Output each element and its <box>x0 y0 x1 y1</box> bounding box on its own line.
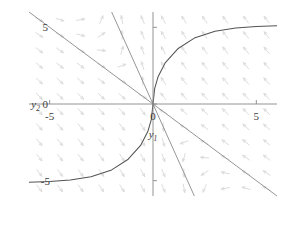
y-axis-title: y2 <box>30 98 40 113</box>
xtick-label-5: 5 <box>254 110 260 122</box>
x-axis-title: y1 <box>148 128 158 143</box>
phase-portrait-plot: 5 0 -5 -5 0 5 y1 y2 <box>0 0 288 244</box>
xtick-label-minus5: -5 <box>45 110 55 122</box>
ytick-label-5: 5 <box>43 21 49 33</box>
ytick-label-0: 0 <box>43 98 49 110</box>
ytick-label-minus5: -5 <box>41 175 51 187</box>
phase-portrait-figure: 5 0 -5 -5 0 5 y1 y2 <box>0 0 288 244</box>
xtick-label-0: 0 <box>150 110 156 122</box>
